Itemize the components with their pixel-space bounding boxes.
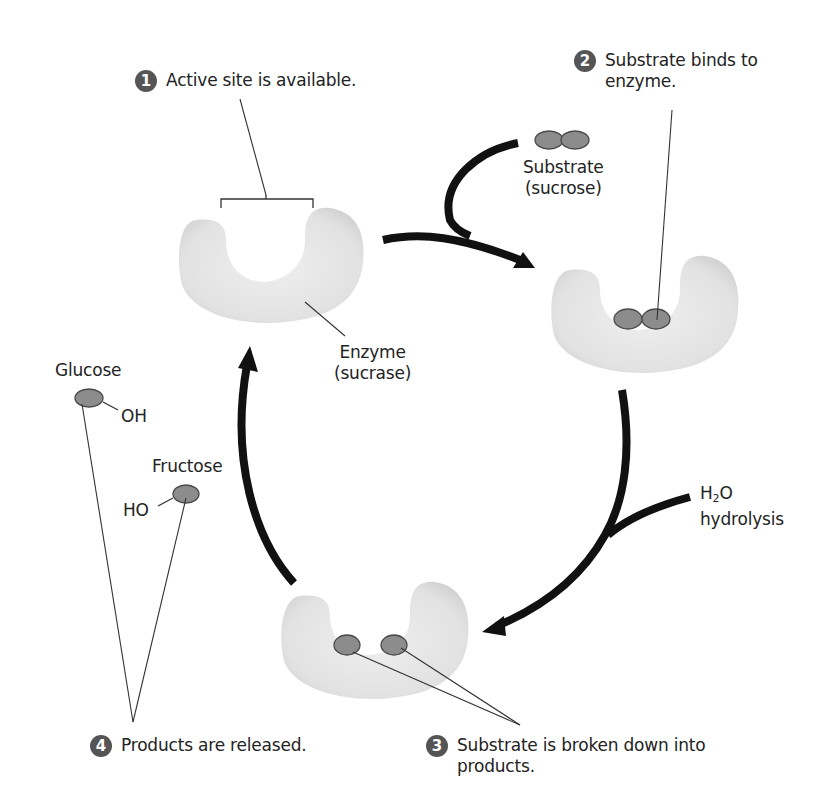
arrow-release [242, 365, 294, 583]
fructose-ho-label: HO [123, 500, 149, 521]
release-leader-fructose [133, 498, 186, 722]
enzyme-label: Enzyme (sucrase) [334, 342, 411, 384]
substrate-label: Substrate (sucrose) [523, 157, 604, 199]
step-3-text: Substrate is broken down into products. [457, 735, 706, 777]
release-leader-glucose [82, 404, 133, 722]
step-2-line1: Substrate binds to [605, 50, 758, 70]
step-number-badge: 4 [90, 735, 112, 757]
step-4-text: Products are released. [121, 735, 307, 756]
fructose-molecule [158, 485, 199, 506]
glucose-molecule [75, 389, 118, 410]
substrate-sucrose [535, 131, 589, 149]
step-number-badge: 3 [426, 735, 448, 757]
arrow-binding [383, 143, 525, 262]
step-4: 4 Products are released. [90, 735, 307, 757]
glucose-label: Glucose [55, 360, 121, 381]
step-number-badge: 1 [135, 70, 157, 92]
arrowhead-hydrolysis [482, 616, 506, 636]
step-2: 2 Substrate binds to enzyme. [574, 50, 758, 92]
enzyme-free [179, 208, 364, 323]
step-2-line2: enzyme. [605, 71, 676, 91]
fructose-label: Fructose [152, 456, 222, 477]
arrowhead-release [238, 346, 258, 372]
step-2-text: Substrate binds to enzyme. [605, 50, 758, 92]
step-number-badge: 2 [574, 50, 596, 72]
step-3: 3 Substrate is broken down into products… [426, 735, 706, 777]
step-1-text: Active site is available. [166, 70, 356, 91]
arrow-hydrolysis [497, 390, 690, 626]
step-3-line1: Substrate is broken down into [457, 735, 706, 755]
step-3-line2: products. [457, 756, 535, 776]
active-site-bracket [221, 195, 313, 208]
step-1: 1 Active site is available. [135, 70, 356, 92]
active-site-leader [240, 99, 266, 195]
enzyme-with-products [281, 582, 468, 699]
enzyme-substrate-complex [551, 256, 738, 373]
binding-leader [657, 110, 672, 320]
hydrolysis-label: H2O hydrolysis [700, 483, 784, 530]
glucose-oh-label: OH [121, 406, 147, 427]
enzyme-cycle-artwork [0, 0, 822, 810]
